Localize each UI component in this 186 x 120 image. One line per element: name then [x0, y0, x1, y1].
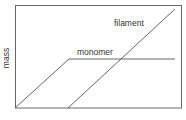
filament-label: filament	[114, 18, 144, 28]
mass-diagram: filament monomer mass	[0, 0, 186, 120]
monomer-label: monomer	[77, 47, 113, 57]
y-axis-label: mass	[1, 48, 11, 68]
